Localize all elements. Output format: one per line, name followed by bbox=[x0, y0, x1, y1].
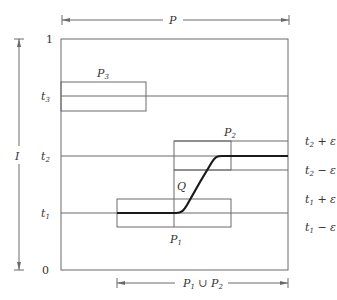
y-label-0: 0 bbox=[42, 264, 49, 277]
y-label-t2: t2 bbox=[41, 150, 50, 164]
label-t2-minus-eps: t2 − ε bbox=[305, 164, 336, 178]
vertical-arrow-i: I bbox=[14, 39, 24, 270]
top-arrow-label: P bbox=[168, 14, 177, 27]
top-arrow-p: P bbox=[62, 14, 289, 27]
label-t1-plus-eps: t1 + ε bbox=[305, 193, 336, 207]
y-label-1: 1 bbox=[46, 33, 53, 46]
y-label-t3: t3 bbox=[41, 90, 50, 104]
path-curve bbox=[117, 156, 288, 213]
bottom-arrow-label: P1 ∪ P2 bbox=[182, 277, 224, 291]
y-label-t1: t1 bbox=[41, 207, 50, 221]
box-p1-label: P1 bbox=[169, 233, 182, 247]
label-t2-plus-eps: t2 + ε bbox=[305, 135, 336, 149]
bottom-arrow-p1-union-p2: P1 ∪ P2 bbox=[117, 277, 288, 291]
vertical-arrow-label: I bbox=[14, 150, 20, 163]
box-p3-label: P3 bbox=[96, 67, 109, 81]
label-t1-minus-eps: t1 − ε bbox=[305, 221, 336, 235]
box-p2: P2 bbox=[174, 126, 236, 227]
path-label-q: Q bbox=[177, 180, 186, 193]
box-p2-label: P2 bbox=[223, 126, 236, 140]
diagram-canvas: P I 1 0 t3 t2 t1 P3 P2 P1 Q t2 + ε bbox=[0, 0, 337, 300]
box-p3: P3 bbox=[61, 67, 146, 111]
